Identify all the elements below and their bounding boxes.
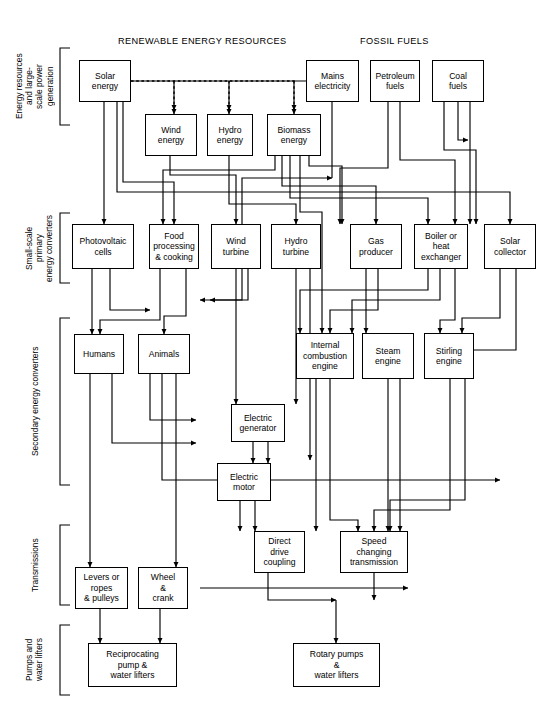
bracket-secondary <box>60 318 70 485</box>
node-label: Petroleum fuels <box>375 71 414 92</box>
header-fossil: FOSSIL FUELS <box>360 36 429 46</box>
node-biomass-energy[interactable]: Biomass energy <box>267 114 321 156</box>
node-label: Mains electricity <box>315 71 351 92</box>
node-photovoltaic-cells[interactable]: Photovoltaic cells <box>72 224 134 269</box>
connector-32 <box>352 269 440 333</box>
node-label: Hydro turbine <box>283 236 309 257</box>
node-label: Direct drive coupling <box>263 536 295 567</box>
node-petroleum-fuels[interactable]: Petroleum fuels <box>370 60 420 102</box>
connector-24 <box>164 269 186 334</box>
node-steam-engine[interactable]: Steam engine <box>362 333 414 379</box>
node-electric-motor[interactable]: Electric motor <box>217 463 271 501</box>
node-label: Electric motor <box>230 472 258 493</box>
node-label: Levers or ropes & pulleys <box>84 572 120 603</box>
node-label: Solar collector <box>494 236 526 257</box>
node-label: Stirling engine <box>436 346 462 367</box>
group-label-pumps: Pumps and water lifters <box>24 625 44 695</box>
node-label: Biomass energy <box>278 125 311 146</box>
bracket-small-scale <box>60 213 70 283</box>
connector-16 <box>340 102 388 224</box>
node-label: Photovoltaic cells <box>80 236 127 257</box>
bracket-resources <box>60 48 70 125</box>
header-renewable: RENEWABLE ENERGY RESOURCES <box>118 36 286 46</box>
node-wheel-crank[interactable]: Wheel & crank <box>138 567 188 609</box>
node-solar-energy[interactable]: Solar energy <box>79 60 131 102</box>
node-gas-producer[interactable]: Gas producer <box>350 224 402 269</box>
diagram-canvas: RENEWABLE ENERGY RESOURCESFOSSIL FUELS E… <box>0 0 555 725</box>
node-mains-electricity[interactable]: Mains electricity <box>306 60 359 102</box>
group-label-small-scale: Small-scale primary energy converters <box>24 213 55 283</box>
node-label: Coal fuels <box>449 71 467 92</box>
group-brackets <box>60 48 70 695</box>
group-label-secondary: Secondary energy converters <box>30 318 40 485</box>
connector-23 <box>100 269 160 334</box>
connector-13 <box>309 156 342 224</box>
node-label: Internal combustion engine <box>303 340 347 371</box>
node-hydro-turbine[interactable]: Hydro turbine <box>271 224 321 269</box>
connector-50 <box>374 379 450 531</box>
node-boiler-heat-exchanger[interactable]: Boiler or heat exchanger <box>414 224 468 269</box>
node-label: Electric generator <box>240 413 277 434</box>
node-label: Rotary pumps & water lifters <box>310 649 364 680</box>
connector-37 <box>112 374 196 443</box>
node-label: Wind energy <box>158 125 184 146</box>
connector-38 <box>150 374 196 420</box>
connector-35 <box>470 269 516 350</box>
node-humans[interactable]: Humans <box>74 334 124 374</box>
node-label: Animals <box>149 349 180 359</box>
node-label: Steam engine <box>375 346 401 367</box>
node-levers-ropes-pulleys[interactable]: Levers or ropes & pulleys <box>75 567 128 609</box>
node-stirling-engine[interactable]: Stirling engine <box>424 333 474 379</box>
bracket-pumps <box>60 625 70 695</box>
node-rotary-pumps[interactable]: Rotary pumps & water lifters <box>293 643 380 687</box>
node-food-processing[interactable]: Food processing & cooking <box>149 224 199 269</box>
connector-51 <box>390 379 465 531</box>
node-reciprocating-pump[interactable]: Reciprocating pump & water lifters <box>88 643 177 687</box>
node-direct-drive-coupling[interactable]: Direct drive coupling <box>254 531 305 573</box>
node-label: Reciprocating pump & water lifters <box>106 649 159 680</box>
connector-31 <box>300 269 428 333</box>
node-label: Solar energy <box>92 71 118 92</box>
node-label: Hydro energy <box>217 125 243 146</box>
node-solar-collector[interactable]: Solar collector <box>484 224 536 269</box>
node-speed-changing-transmission[interactable]: Speed changing transmission <box>340 531 408 573</box>
connector-34 <box>462 269 500 333</box>
connector-33 <box>440 269 455 333</box>
node-label: Speed changing transmission <box>350 536 398 567</box>
connector-7 <box>170 156 236 224</box>
node-wind-energy[interactable]: Wind energy <box>145 114 197 156</box>
node-label: Gas producer <box>359 236 393 257</box>
node-label: Food processing & cooking <box>153 231 195 262</box>
node-label: Humans <box>83 349 115 359</box>
node-electric-generator[interactable]: Electric generator <box>231 404 285 442</box>
group-label-transmissions: Transmissions <box>30 525 40 605</box>
connector-18 <box>444 102 476 224</box>
connector-22 <box>110 269 150 310</box>
connector-9 <box>163 156 275 224</box>
node-wind-turbine[interactable]: Wind turbine <box>211 224 261 269</box>
group-label-resources: Energy resources and large- scale power … <box>14 48 55 125</box>
connector-47 <box>330 379 358 531</box>
bracket-transmissions <box>60 525 70 605</box>
node-hydro-energy[interactable]: Hydro energy <box>207 114 253 156</box>
connector-19 <box>458 102 468 140</box>
node-coal-fuels[interactable]: Coal fuels <box>432 60 484 102</box>
node-label: Wind turbine <box>223 236 249 257</box>
connector-52 <box>268 573 336 600</box>
node-internal-combustion-engine[interactable]: Internal combustion engine <box>296 333 354 379</box>
dashed-connectors <box>131 81 296 110</box>
node-label: Wheel & crank <box>151 572 175 603</box>
connector-8 <box>229 156 296 224</box>
node-label: Boiler or heat exchanger <box>421 231 461 262</box>
node-animals[interactable]: Animals <box>138 334 190 374</box>
connector-30 <box>330 269 378 333</box>
